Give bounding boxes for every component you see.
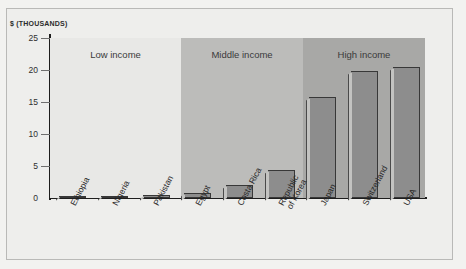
y-axis-title: $ (THOUSANDS) — [10, 20, 67, 27]
income-band-low: Low income — [50, 38, 181, 198]
y-axis-tick-label: 20 — [0, 65, 38, 75]
plot-area: Low incomeMiddle incomeHigh income — [50, 38, 425, 198]
bar — [393, 67, 420, 198]
y-axis-tick-label: 5 — [0, 161, 38, 171]
income-band-label-low: Low income — [50, 49, 181, 60]
chart-figure: $ (THOUSANDS) 0510152025 Low incomeMiddl… — [0, 0, 466, 269]
y-axis-tick-label: 15 — [0, 97, 38, 107]
y-axis-tick-label: 0 — [0, 193, 38, 203]
y-axis-tick-label: 10 — [0, 129, 38, 139]
y-axis-tick-label: 25 — [0, 33, 38, 43]
income-band-label-middle: Middle income — [181, 49, 303, 60]
income-band-label-high: High income — [303, 49, 425, 60]
